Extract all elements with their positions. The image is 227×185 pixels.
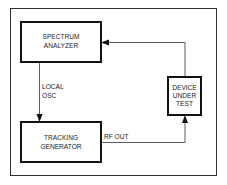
spectrum-analyzer-label-1: SPECTRUM bbox=[43, 33, 80, 40]
local-osc-label-2: OSC bbox=[42, 92, 57, 99]
local-osc-label-1: LOCAL bbox=[42, 83, 64, 90]
tracking-generator-label-2: GENERATOR bbox=[40, 143, 81, 150]
spectrum-analyzer-label-2: ANALYZER bbox=[44, 42, 79, 49]
dut-label-1: DEVICE bbox=[172, 84, 197, 91]
tracking-generator-block: TRACKING GENERATOR bbox=[21, 122, 101, 162]
arrowhead-icon bbox=[37, 114, 43, 122]
local-osc-connection: LOCAL OSC bbox=[37, 62, 64, 122]
arrowhead-icon bbox=[182, 115, 188, 123]
rf-out-connection: RF OUT bbox=[101, 115, 188, 143]
spectrum-analyzer-block: SPECTRUM ANALYZER bbox=[21, 22, 101, 62]
block-diagram: SPECTRUM ANALYZER TRACKING GENERATOR DEV… bbox=[0, 0, 227, 185]
dut-label-2: UNDER bbox=[173, 92, 197, 99]
tracking-generator-label-1: TRACKING bbox=[44, 134, 78, 141]
device-under-test-block: DEVICE UNDER TEST bbox=[168, 77, 201, 115]
dut-to-analyzer-connection bbox=[101, 40, 185, 78]
arrowhead-icon bbox=[101, 40, 109, 46]
dut-label-3: TEST bbox=[176, 100, 193, 107]
rf-out-label: RF OUT bbox=[104, 133, 129, 140]
